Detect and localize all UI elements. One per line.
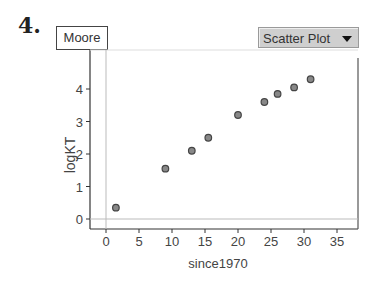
svg-text:3: 3 — [76, 115, 83, 130]
data-points — [113, 76, 314, 211]
svg-text:35: 35 — [330, 234, 344, 249]
data-point — [261, 99, 268, 106]
data-point — [291, 84, 298, 91]
svg-text:10: 10 — [165, 234, 179, 249]
data-point — [307, 76, 314, 83]
data-point — [235, 112, 242, 119]
x-axis-label: since1970 — [188, 256, 247, 271]
svg-text:0: 0 — [76, 212, 83, 227]
data-point — [162, 165, 169, 172]
y-axis-label: logKT — [62, 136, 78, 173]
svg-text:25: 25 — [264, 234, 278, 249]
svg-text:5: 5 — [135, 234, 142, 249]
data-point — [274, 91, 281, 98]
svg-text:0: 0 — [102, 234, 109, 249]
data-point — [113, 204, 120, 211]
svg-text:4: 4 — [76, 82, 83, 97]
svg-text:30: 30 — [297, 234, 311, 249]
svg-text:15: 15 — [198, 234, 212, 249]
svg-text:20: 20 — [231, 234, 245, 249]
data-point — [205, 134, 212, 141]
scatter-plot: 0510152025303501234 since1970 logKT — [0, 0, 375, 285]
data-point — [189, 147, 196, 154]
svg-text:1: 1 — [76, 180, 83, 195]
axes: 0510152025303501234 — [76, 50, 358, 249]
